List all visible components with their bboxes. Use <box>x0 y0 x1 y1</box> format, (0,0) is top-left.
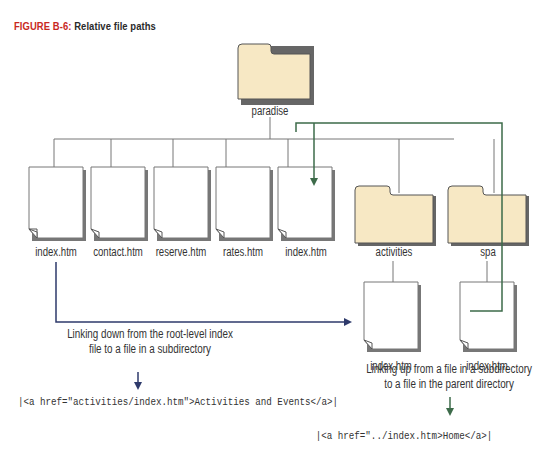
file-label: reserve.htm <box>156 245 207 259</box>
link-down-arrow <box>56 262 350 388</box>
folder-label-activities: activities <box>376 245 413 259</box>
file-label: index.htm <box>35 245 77 259</box>
document-icon <box>364 282 421 352</box>
link-down-caption: Linking down from the root-level index f… <box>67 327 233 357</box>
folder-icon <box>448 186 529 246</box>
file-label: rates.htm <box>223 245 263 259</box>
document-icon <box>91 167 148 241</box>
folder-icon <box>238 44 314 105</box>
document-icon <box>278 167 335 241</box>
link-up-caption: Linking up from a file in a subdirectory… <box>366 362 532 392</box>
file-label: contact.htm <box>93 245 143 259</box>
folder-label-spa: spa <box>480 245 495 259</box>
file-label: index.htm <box>285 245 327 259</box>
link-up-code: |<a href="../index.htm>Home</a>| <box>316 431 493 442</box>
document-icon <box>29 167 86 241</box>
root-document-icons <box>29 167 335 241</box>
document-icon <box>216 167 273 241</box>
document-icon <box>460 282 517 352</box>
document-icon <box>154 167 211 241</box>
folder-icon <box>355 186 436 246</box>
link-down-code: |<a href="activities/index.htm">Activiti… <box>18 397 338 408</box>
folder-label-paradise: paradise <box>252 104 289 118</box>
